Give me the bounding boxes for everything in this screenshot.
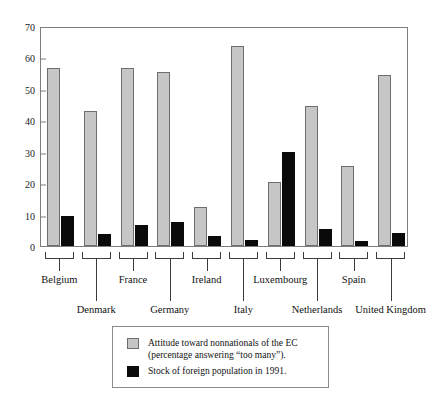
bar-belgium-attitude: [47, 68, 60, 246]
category-bracket: [229, 252, 258, 259]
legend-swatch-gray-icon: [127, 338, 139, 349]
bar-united-kingdom-attitude: [378, 75, 391, 246]
y-axis-tick-label: 40: [25, 117, 41, 127]
category-stem: [391, 259, 392, 301]
bar-netherlands-attitude: [305, 106, 318, 246]
category-bracket: [119, 252, 148, 259]
bar-netherlands-foreign-population: [319, 229, 332, 246]
y-axis-tick-mark: [41, 153, 46, 154]
category-stem: [59, 259, 60, 271]
legend-item-attitude: Attitude toward nonnationals of the EC (…: [127, 337, 298, 361]
bar-luxembourg-foreign-population: [282, 152, 295, 246]
category-axis: BelgiumDenmarkFranceGermanyIrelandItalyL…: [40, 247, 408, 327]
bar-ireland-foreign-population: [208, 236, 221, 246]
category-bracket: [339, 252, 368, 259]
legend-label-attitude: Attitude toward nonnationals of the EC (…: [148, 337, 298, 361]
category-stem: [96, 259, 97, 301]
category-bracket: [155, 252, 184, 259]
bar-denmark-attitude: [84, 111, 97, 246]
category-bracket: [376, 252, 405, 259]
bar-france-attitude: [121, 68, 134, 246]
y-axis-tick-label: 50: [25, 86, 41, 96]
legend-item-foreign-population: Stock of foreign population in 1991.: [127, 365, 286, 377]
bar-luxembourg-attitude: [268, 182, 281, 246]
bar-belgium-foreign-population: [61, 216, 74, 246]
category-label-ireland: Ireland: [192, 275, 222, 286]
y-axis-tick-mark: [41, 216, 46, 217]
category-stem: [207, 259, 208, 271]
legend-label-attitude-line1: Attitude toward nonnationals of the EC: [148, 338, 298, 348]
category-label-luxembourg: Luxembourg: [253, 275, 307, 286]
category-bracket: [192, 252, 221, 259]
category-label-spain: Spain: [342, 275, 366, 286]
y-axis-tick-label: 30: [25, 149, 41, 159]
bar-italy-attitude: [231, 46, 244, 246]
category-bracket: [303, 252, 332, 259]
y-axis-tick-mark: [41, 90, 46, 91]
category-label-france: France: [119, 275, 148, 286]
category-stem: [280, 259, 281, 271]
bar-chart-figure: 010203040506070 BelgiumDenmarkFranceGerm…: [0, 0, 441, 407]
category-stem: [243, 259, 244, 301]
bar-france-foreign-population: [135, 225, 148, 246]
category-label-united-kingdom: United Kingdom: [355, 305, 426, 316]
category-bracket: [45, 252, 74, 259]
category-label-germany: Germany: [150, 305, 189, 316]
y-axis-tick-label: 20: [25, 180, 41, 190]
category-stem: [133, 259, 134, 271]
bar-spain-attitude: [341, 166, 354, 246]
y-axis-tick-mark: [41, 59, 46, 60]
bar-denmark-foreign-population: [98, 234, 111, 246]
legend-label-attitude-line2: (percentage answering “too many”).: [148, 349, 298, 361]
legend-swatch-black-icon: [127, 366, 139, 377]
category-label-belgium: Belgium: [41, 275, 77, 286]
y-axis-tick-mark: [41, 185, 46, 186]
chart-legend: Attitude toward nonnationals of the EC (…: [112, 326, 329, 388]
category-bracket: [82, 252, 111, 259]
y-axis-tick-label: 70: [25, 23, 41, 33]
category-label-italy: Italy: [234, 305, 253, 316]
category-stem: [354, 259, 355, 271]
y-axis-tick-mark: [41, 122, 46, 123]
category-bracket: [266, 252, 295, 259]
plot-area: 010203040506070: [40, 27, 408, 247]
bar-italy-foreign-population: [245, 240, 258, 246]
category-label-denmark: Denmark: [77, 305, 116, 316]
category-stem: [317, 259, 318, 301]
bar-germany-foreign-population: [171, 222, 184, 247]
category-stem: [170, 259, 171, 301]
bar-spain-foreign-population: [355, 241, 368, 246]
y-axis-tick-label: 10: [25, 212, 41, 222]
legend-label-foreign-population-line1: Stock of foreign population in 1991.: [148, 366, 286, 376]
legend-label-foreign-population: Stock of foreign population in 1991.: [148, 365, 286, 377]
bar-united-kingdom-foreign-population: [392, 233, 405, 246]
y-axis-tick-label: 60: [25, 54, 41, 64]
bar-germany-attitude: [157, 72, 170, 246]
bar-ireland-attitude: [194, 207, 207, 246]
category-label-netherlands: Netherlands: [292, 305, 343, 316]
